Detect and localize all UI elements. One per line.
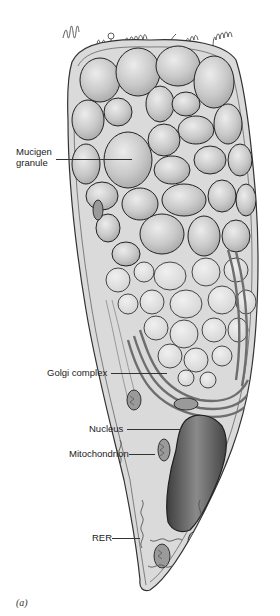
leader-rer [112,538,140,539]
leader-mucigen [56,159,132,160]
leader-golgi [111,373,167,374]
label-rer: RER [92,532,112,543]
goblet-cell-illustration [0,0,280,616]
label-mucigen-granule: Mucigen granule [16,146,52,168]
leader-mitochondrion [129,454,155,455]
leader-nucleus [127,429,181,430]
label-mucigen-line1: Mucigen [16,146,52,157]
label-mitochondrion: Mitochondrion [69,448,129,459]
label-golgi-complex: Golgi complex [47,367,107,378]
label-nucleus: Nucleus [89,423,123,434]
label-mucigen-line2: granule [16,157,52,168]
panel-label: (a) [16,597,28,608]
